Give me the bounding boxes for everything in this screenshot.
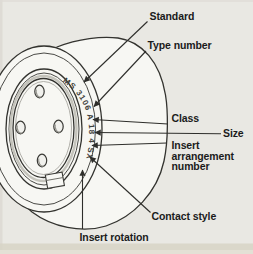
- keyway-notch: [45, 172, 64, 188]
- connector-diagram-canvas: MS 3106 A 18 4 SX Standard Type number C…: [0, 0, 253, 254]
- size-label: Size: [223, 127, 244, 139]
- top-edge-shading: [0, 0, 253, 2]
- contact-style-label: Contact style: [152, 210, 217, 222]
- type-number-label: Type number: [148, 39, 212, 51]
- standard-label: Standard: [150, 10, 195, 22]
- insert-arrangement-label-line3: number: [172, 160, 210, 172]
- class-label: Class: [172, 112, 200, 124]
- insert-rotation-label: Insert rotation: [80, 231, 149, 243]
- figure-connector-marking-diagram: MS 3106 A 18 4 SX Standard Type number C…: [0, 0, 253, 254]
- bottom-edge-band: [0, 244, 253, 251]
- bottom-edge-light: [0, 250, 253, 254]
